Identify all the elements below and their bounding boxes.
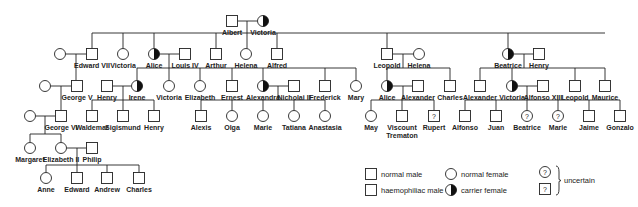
haemophiliac-male-symbol	[397, 111, 408, 122]
question-mark-icon: ?	[543, 169, 547, 176]
person-alice3: Alice	[379, 81, 396, 101]
individuals: AlbertVictoriaEdward VIIVictoriaAliceLou…	[15, 16, 634, 193]
person-name-label: Charles	[126, 186, 152, 193]
carrier-half-fill	[508, 49, 514, 60]
haemophiliac-male-symbol	[382, 49, 393, 60]
person-name-label: Henry	[529, 62, 549, 70]
person-alice2: Alice	[146, 49, 163, 69]
haemophiliac-male-symbol	[600, 81, 611, 92]
haemophiliac-male-symbol	[460, 111, 471, 122]
person-edward6: Edward	[64, 173, 89, 193]
legend-label: normal male	[381, 170, 422, 179]
person-name-label: Alexander	[463, 94, 497, 101]
person-leopold3: Leopold	[561, 81, 588, 102]
person-henry2: Henry	[529, 49, 549, 70]
male-symbol	[72, 81, 83, 92]
person-name-label: Irene	[129, 94, 146, 101]
person-anastasia: Anastasia	[308, 111, 341, 131]
person-philip: Philip	[82, 143, 101, 164]
carrier-half-fill	[263, 81, 269, 92]
person-henry4: Henry	[144, 111, 164, 132]
person-name-label: Alexis	[191, 124, 212, 131]
person-name-label: Viscount	[387, 124, 417, 131]
carrier-half-fill	[387, 81, 393, 92]
person-name-label: Leopold	[373, 62, 400, 70]
male-symbol	[366, 169, 377, 180]
person-marie4b: ?Marie	[549, 111, 567, 131]
person-name-label: Elizabeth	[185, 94, 216, 101]
person-name-label: Charles	[437, 94, 463, 101]
male-symbol	[87, 49, 98, 60]
person-ernest: Ernest	[221, 81, 243, 101]
person-name-label: Gonzalo	[606, 124, 634, 131]
female-symbol	[118, 49, 129, 60]
male-symbol	[584, 111, 595, 122]
person-name-label: Alfonso XIII	[524, 94, 563, 101]
person-victoria3: Victoria	[156, 81, 182, 101]
male-symbol	[538, 81, 549, 92]
legend-item-normal-male: normal male	[366, 169, 423, 180]
person-albert: Albert	[222, 16, 243, 36]
person-name-label: Beatrice	[494, 62, 522, 69]
question-mark-icon: ?	[525, 113, 529, 120]
person-name-label: Philip	[82, 156, 101, 164]
person-charles6: Charles	[126, 173, 152, 193]
person-helena2: Helena	[235, 49, 258, 69]
female-symbol	[227, 111, 238, 122]
carrier-half-fill	[137, 81, 143, 92]
person-name-label: Frederick	[309, 94, 341, 101]
person-victoria3b: Victoria	[499, 81, 525, 101]
person-name-label: Alice	[146, 62, 163, 69]
person-beatrice2: Beatrice	[494, 49, 522, 69]
carrier-half-fill	[263, 16, 269, 27]
person-george5: George V	[61, 81, 92, 102]
person-name-label: Victoria	[250, 29, 276, 36]
female-symbol	[351, 81, 362, 92]
legend-item-uncertain: ??uncertain	[540, 166, 595, 195]
person-helena_w: Helena	[408, 49, 431, 69]
person-rupert: ?Rupert	[423, 111, 446, 132]
female-symbol	[289, 111, 300, 122]
female-symbol	[414, 49, 425, 60]
person-george6: George VI	[44, 111, 77, 132]
question-mark-icon: ?	[543, 186, 547, 193]
male-symbol	[289, 81, 300, 92]
person-andrew: Andrew	[94, 173, 120, 193]
person-name-label: Ernest	[221, 94, 243, 101]
person-edward7: Edward VII	[74, 49, 110, 69]
female-symbol	[446, 169, 457, 180]
male-symbol	[227, 81, 238, 92]
female-symbol	[241, 49, 252, 60]
person-g2_wife_edward	[55, 49, 66, 60]
person-name-label: Elizabeth II	[43, 156, 80, 163]
female-symbol	[258, 111, 269, 122]
person-tatiana: Tatiana	[282, 111, 306, 131]
male-symbol	[180, 49, 191, 60]
person-alexander3a: Alexander	[401, 81, 435, 101]
person-may: May	[364, 111, 378, 132]
male-symbol	[102, 173, 113, 184]
haemophiliac-male-symbol	[366, 185, 377, 196]
carrier-half-fill	[512, 81, 518, 92]
person-juan: Juan	[488, 111, 504, 131]
person-name-label: Marie	[549, 124, 567, 131]
male-symbol	[445, 81, 456, 92]
female-symbol	[56, 143, 67, 154]
person-name-label: Waldemar	[75, 124, 108, 131]
person-anne: Anne	[37, 173, 55, 193]
person-name-label: Alexander	[401, 94, 435, 101]
person-name-label: Maurice	[592, 94, 619, 101]
person-irene: Irene	[129, 81, 146, 101]
carrier-half-fill	[154, 49, 160, 60]
female-symbol	[164, 81, 175, 92]
male-symbol	[491, 111, 502, 122]
person-name-label: Alfonso	[452, 124, 478, 131]
person-trematon: ViscountTrematon	[386, 111, 418, 139]
brace-icon	[556, 166, 561, 195]
person-name-label: May	[364, 124, 378, 132]
male-symbol	[211, 49, 222, 60]
legend-label: normal female	[461, 170, 509, 179]
male-symbol	[118, 111, 129, 122]
female-symbol	[25, 143, 36, 154]
person-name-label: Beatrice	[513, 124, 541, 131]
